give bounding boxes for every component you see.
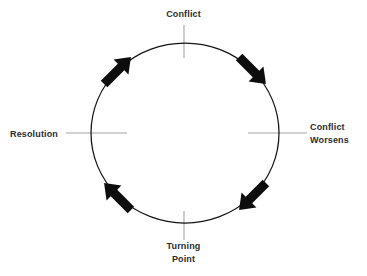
arrow-clockwise-top-right-icon (232, 50, 274, 92)
stage-label-conflict: Conflict (0, 8, 367, 21)
stage-label-resolution: Resolution (10, 128, 66, 141)
arrow-clockwise-bottom-left-icon (97, 176, 139, 218)
stage-label-conflict-line-1: Conflict (0, 8, 367, 21)
stage-label-turning-point-line-2: Point (0, 253, 367, 266)
stage-label-conflict-worsens-line-1: Conflict (310, 121, 367, 134)
tick-marks-group (66, 25, 307, 240)
arrow-clockwise-bottom-right-icon (232, 176, 274, 218)
stage-label-resolution-line-1: Resolution (10, 128, 66, 141)
stage-label-conflict-worsens: Conflict Worsens (310, 121, 367, 147)
arrow-clockwise-top-left-icon (97, 50, 139, 92)
stage-label-turning-point-line-1: Turning (0, 240, 367, 253)
stage-label-turning-point: Turning Point (0, 240, 367, 266)
conflict-cycle-diagram: Conflict Conflict Worsens Turning Point … (0, 0, 367, 276)
stage-label-conflict-worsens-line-2: Worsens (310, 134, 367, 147)
